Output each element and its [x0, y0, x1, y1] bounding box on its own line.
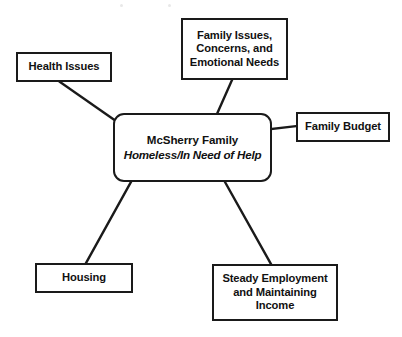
node-family-budget[interactable]: Family Budget: [296, 112, 390, 142]
connector-center-to-steady-employment: [225, 182, 271, 264]
node-family-issues-line-2: Concerns, and: [196, 42, 272, 56]
scan-speck: [120, 4, 123, 7]
node-center-mcsherry-family[interactable]: McSherry Family Homeless/In Need of Help: [113, 113, 272, 182]
node-steady-employment-line-1: Steady Employment: [222, 272, 327, 286]
node-family-issues-line-3: Emotional Needs: [190, 56, 279, 70]
node-health-issues-line-1: Health Issues: [29, 60, 100, 74]
node-steady-employment-line-3: Income: [256, 299, 295, 313]
node-family-issues-line-1: Family Issues,: [197, 29, 272, 43]
node-steady-employment-line-2: and Maintaining: [233, 286, 317, 300]
center-node-title: McSherry Family: [147, 132, 238, 147]
node-housing[interactable]: Housing: [35, 263, 133, 293]
connector-center-to-housing: [86, 182, 131, 263]
connector-center-to-family-issues: [217, 80, 232, 114]
node-steady-employment[interactable]: Steady Employment and Maintaining Income: [212, 264, 338, 321]
center-node-descriptor: Homeless/In Need of Help: [124, 147, 262, 163]
node-family-budget-line-1: Family Budget: [305, 120, 381, 134]
diagram-canvas: McSherry Family Homeless/In Need of Help…: [0, 0, 402, 337]
node-health-issues[interactable]: Health Issues: [16, 52, 112, 82]
connector-center-to-health-issues: [60, 82, 116, 121]
node-family-issues[interactable]: Family Issues, Concerns, and Emotional N…: [181, 18, 288, 80]
scan-speck: [168, 4, 171, 7]
connector-center-to-family-budget: [272, 126, 297, 129]
node-housing-line-1: Housing: [62, 271, 106, 285]
